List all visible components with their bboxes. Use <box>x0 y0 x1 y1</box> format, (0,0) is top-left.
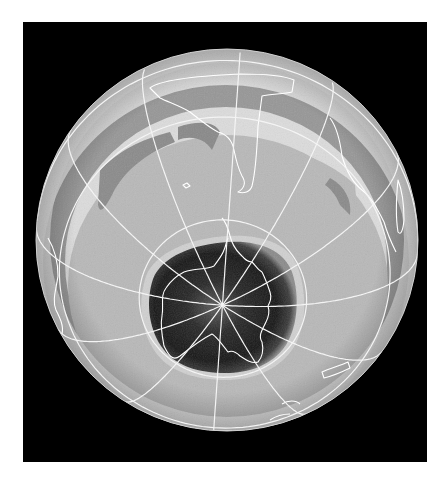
ozone-globe-map <box>23 22 427 462</box>
map-frame <box>23 22 427 462</box>
